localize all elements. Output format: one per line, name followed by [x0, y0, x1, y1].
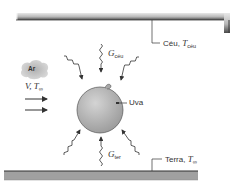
ground-irradiation-label: Gter [108, 150, 121, 159]
sky-irradiation-label: Gcéu [108, 49, 123, 58]
sky-irradiation-subscript: céu [115, 53, 124, 59]
grape-label: Uva [129, 99, 143, 107]
ground-temp-subscript: ∞ [193, 159, 197, 165]
air-temp-subscript: ∞ [39, 86, 43, 92]
ground-temp-symbol: T [188, 154, 193, 164]
sky-temp-subscript: céu [187, 43, 196, 49]
ground-radiation-arrows-icon [64, 130, 140, 166]
sky-leader-line [152, 20, 160, 43]
sky-irradiation-symbol: G [108, 48, 115, 58]
ground-irradiation-symbol: G [108, 149, 115, 159]
airflow-arrows-icon [25, 99, 47, 110]
ground-leader-line [152, 159, 162, 171]
sky-radiation-arrows-icon [64, 44, 139, 80]
diagram-canvas [0, 0, 240, 189]
grape-sphere [77, 84, 123, 133]
air-flow-label: V, T∞ [25, 82, 43, 91]
sky-surface [16, 13, 230, 33]
air-velocity-symbol: V, [25, 81, 34, 91]
sky-label: Céu, Tcéu [163, 39, 196, 48]
ground-surface [4, 171, 198, 180]
sky-label-text: Céu, [163, 39, 182, 48]
ground-label-text: Terra, [165, 155, 188, 164]
air-label: Ar [28, 66, 35, 73]
ground-label: Terra, T∞ [165, 155, 197, 164]
ground-irradiation-subscript: ter [115, 154, 121, 160]
radiation-diagram: Céu, Tcéu Gcéu Ar V, T∞ Uva Gter Terra, … [0, 0, 240, 189]
